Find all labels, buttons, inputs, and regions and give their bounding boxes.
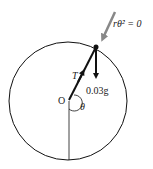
circular-motion-diagram: rθ̇² = 0 T 0.03g O θ — [0, 0, 153, 169]
center-label: O — [58, 95, 65, 106]
particle — [94, 45, 99, 50]
weight-label: 0.03g — [86, 85, 109, 96]
tension-label: T — [72, 70, 79, 81]
tension-arrow — [78, 72, 83, 82]
circular-path — [9, 42, 127, 160]
angle-label: θ — [80, 101, 85, 112]
radial-term-label: rθ̇² = 0 — [113, 18, 142, 29]
